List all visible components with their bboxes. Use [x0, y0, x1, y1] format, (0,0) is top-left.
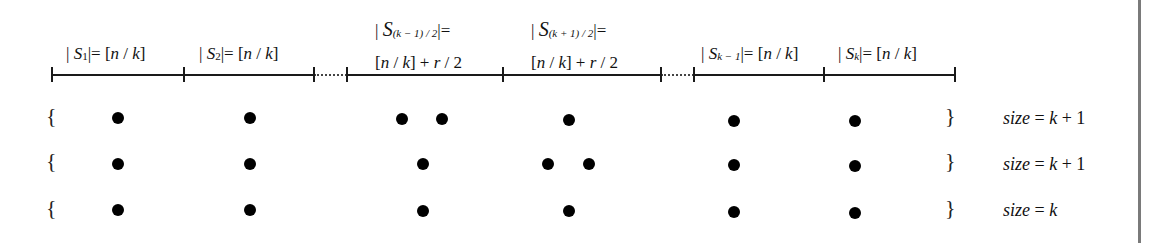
label-symbol: S	[74, 44, 83, 63]
label-text: |	[375, 21, 383, 40]
label-text: ] +	[566, 53, 590, 72]
element-dot	[112, 204, 124, 216]
label-text: /	[252, 44, 265, 63]
label-s1: | S1|= [n / k]	[66, 45, 146, 62]
axis-ellipsis-left	[314, 74, 347, 76]
axis-segment-s2	[184, 74, 314, 76]
size-rest: + 1	[1057, 154, 1085, 174]
label-s-k: | Sk|= [n / k]	[838, 45, 917, 62]
right-border	[1138, 0, 1141, 243]
axis-tick	[346, 67, 348, 82]
size-label: size = k + 1	[1003, 155, 1085, 173]
axis-segment-s-k	[824, 74, 955, 76]
open-brace: {	[46, 150, 57, 172]
element-dot	[563, 205, 575, 217]
label-subscript: k − 1	[717, 50, 740, 62]
size-label: size = k + 1	[1003, 109, 1085, 127]
label-symbol: S	[383, 18, 393, 40]
element-dot	[849, 115, 861, 127]
label-var: k	[785, 44, 793, 63]
element-dot	[563, 114, 575, 126]
element-dot	[112, 112, 124, 124]
label-s-k-minus-1: | Sk − 1|= [n / k]	[701, 45, 798, 62]
size-var: k	[1049, 200, 1057, 220]
axis-tick	[313, 67, 315, 82]
label-text: |= [	[859, 44, 882, 63]
element-dot	[728, 115, 740, 127]
label-text: |= [	[88, 44, 111, 63]
label-text: |= [	[221, 44, 244, 63]
label-text: / 2	[440, 53, 462, 72]
close-brace: }	[945, 150, 956, 172]
element-dot	[849, 207, 861, 219]
label-text: ] +	[410, 53, 434, 72]
label-text: |	[838, 44, 846, 63]
label-text: ]	[140, 44, 146, 63]
element-dot	[849, 160, 861, 172]
label-text: |	[531, 21, 539, 40]
open-brace: {	[46, 105, 57, 127]
element-dot	[728, 159, 740, 171]
label-text: |	[701, 44, 709, 63]
label-var: n	[763, 44, 772, 63]
label-var: n	[537, 53, 546, 72]
element-dot	[436, 113, 448, 125]
label-var: k	[402, 53, 410, 72]
close-brace: }	[945, 197, 956, 219]
label-text: /	[772, 44, 785, 63]
label-var: k	[558, 53, 566, 72]
label-var: n	[381, 53, 390, 72]
label-s-mid-lower: | S(k − 1) / 2|= [n / k] + r / 2	[375, 14, 462, 78]
axis-segment-s-mid-upper	[503, 74, 661, 76]
label-subscript: (k + 1) / 2	[549, 27, 594, 39]
label-var: k	[265, 44, 273, 63]
element-dot	[244, 112, 256, 124]
label-text: /	[545, 53, 558, 72]
element-dot	[417, 158, 429, 170]
size-eq: =	[1030, 108, 1049, 128]
label-var: n	[111, 44, 120, 63]
size-label: size = k	[1003, 201, 1057, 219]
axis-segment-s-mid-lower	[347, 74, 503, 76]
axis-segment-s1	[52, 74, 184, 76]
element-dot	[244, 158, 256, 170]
label-text: ]	[911, 44, 917, 63]
label-text: /	[389, 53, 402, 72]
size-word: size	[1003, 108, 1030, 128]
axis-tick	[502, 67, 504, 82]
axis-tick	[954, 67, 956, 82]
label-text: |=	[437, 21, 450, 40]
label-text: /	[119, 44, 132, 63]
element-dot	[112, 158, 124, 170]
element-dot	[728, 206, 740, 218]
axis-tick	[51, 67, 53, 82]
size-eq: =	[1030, 200, 1049, 220]
label-var: n	[244, 44, 253, 63]
label-text: ]	[273, 44, 279, 63]
axis-segment-s-k-minus-1	[694, 74, 824, 76]
label-s2: | S2|= [n / k]	[199, 45, 279, 62]
label-text: / 2	[596, 53, 618, 72]
size-word: size	[1003, 200, 1030, 220]
label-symbol: S	[539, 18, 549, 40]
label-text: |= [	[740, 44, 763, 63]
label-symbol: S	[709, 44, 718, 63]
size-rest: + 1	[1057, 108, 1085, 128]
label-line1: | S(k − 1) / 2|=	[375, 14, 462, 48]
element-dot	[396, 113, 408, 125]
label-text: ]	[793, 44, 799, 63]
axis-tick	[183, 67, 185, 82]
element-dot	[583, 158, 595, 170]
open-brace: {	[46, 197, 57, 219]
element-dot	[244, 204, 256, 216]
label-symbol: S	[207, 44, 216, 63]
size-eq: =	[1030, 154, 1049, 174]
label-line1: | S(k + 1) / 2|=	[531, 14, 618, 48]
label-text: /	[890, 44, 903, 63]
label-symbol: S	[846, 44, 855, 63]
axis-tick	[660, 67, 662, 82]
axis-ellipsis-right	[661, 74, 694, 76]
element-dot	[542, 158, 554, 170]
label-s-mid-upper: | S(k + 1) / 2|= [n / k] + r / 2	[531, 14, 618, 78]
axis-tick	[823, 67, 825, 82]
